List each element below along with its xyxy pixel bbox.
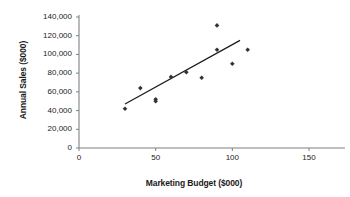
data-point xyxy=(230,61,235,66)
plot-area xyxy=(0,0,350,197)
axes xyxy=(76,15,345,151)
data-point xyxy=(138,86,143,91)
data-point xyxy=(123,106,128,111)
data-point xyxy=(199,76,204,81)
data-point xyxy=(215,47,220,52)
data-point xyxy=(169,75,174,80)
trendline xyxy=(125,40,240,104)
scatter-chart: Annual Sales ($000) Marketing Budget ($0… xyxy=(0,0,350,197)
data-points xyxy=(123,23,250,111)
data-point xyxy=(245,47,250,52)
data-point xyxy=(215,23,220,28)
